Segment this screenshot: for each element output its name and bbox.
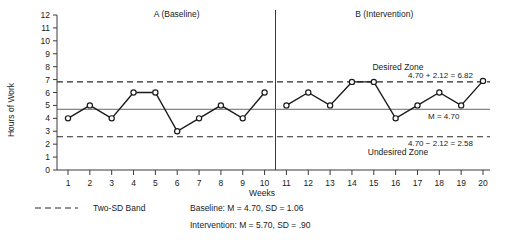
lower-band-value-label: 4.70 − 2.12 = 2.58	[408, 139, 473, 148]
x-tick-label: 7	[197, 178, 202, 188]
y-axis-tick-labels: 0123456789101112	[41, 10, 51, 175]
data-point-marker	[131, 90, 136, 95]
data-point-marker	[415, 103, 420, 108]
data-point-marker	[393, 116, 398, 121]
x-tick-label: 12	[304, 178, 314, 188]
x-tick-label: 18	[435, 178, 445, 188]
x-tick-label: 17	[413, 178, 423, 188]
legend-intervention-stats: Intervention: M = 5.70, SD = .90	[190, 220, 311, 230]
y-tick-label: 0	[45, 165, 50, 175]
data-point-marker	[153, 90, 158, 95]
x-tick-label: 8	[219, 178, 224, 188]
x-tick-label: 16	[391, 178, 401, 188]
data-point-marker	[371, 79, 376, 84]
chart-figure: 0123456789101112 12345678910111213141516…	[0, 0, 513, 240]
data-point-marker	[218, 103, 223, 108]
x-axis-ticks	[68, 170, 483, 175]
baseline-series-line	[68, 93, 265, 132]
x-tick-label: 3	[109, 178, 114, 188]
x-tick-label: 5	[153, 178, 158, 188]
y-tick-label: 2	[45, 139, 50, 149]
y-tick-label: 9	[45, 49, 50, 59]
y-axis-title: Hours of Work	[6, 82, 16, 137]
data-point-marker	[65, 116, 70, 121]
x-tick-label: 4	[131, 178, 136, 188]
x-tick-label: 11	[282, 178, 291, 188]
x-tick-label: 6	[175, 178, 180, 188]
x-tick-label: 15	[369, 178, 379, 188]
x-tick-label: 13	[325, 178, 335, 188]
data-point-marker	[349, 79, 354, 84]
data-point-marker	[87, 103, 92, 108]
data-point-marker	[109, 116, 114, 121]
y-tick-label: 12	[41, 10, 51, 20]
legend-band-label: Two-SD Band	[93, 203, 146, 213]
x-axis-tick-labels: 1234567891011121314151617181920	[66, 178, 488, 188]
y-tick-label: 10	[41, 36, 51, 46]
chart-svg: 0123456789101112 12345678910111213141516…	[0, 0, 513, 240]
data-point-marker	[306, 90, 311, 95]
data-point-marker	[437, 90, 442, 95]
x-tick-label: 20	[478, 178, 488, 188]
y-tick-label: 6	[45, 88, 50, 98]
data-point-marker	[196, 116, 201, 121]
data-point-marker	[175, 129, 180, 134]
mean-value-label: M = 4.70	[428, 112, 460, 121]
x-tick-label: 10	[260, 178, 270, 188]
x-tick-label: 19	[456, 178, 466, 188]
phase-a-label: A (Baseline)	[154, 9, 200, 19]
x-tick-label: 14	[347, 178, 357, 188]
data-point-marker	[459, 103, 464, 108]
y-tick-label: 1	[45, 152, 50, 162]
y-tick-label: 3	[45, 126, 50, 136]
data-point-marker	[480, 78, 485, 83]
upper-band-value-label: 4.70 + 2.12 = 6.82	[408, 71, 473, 80]
legend-baseline-stats: Baseline: M = 4.70, SD = 1.06	[190, 203, 304, 213]
x-tick-label: 2	[87, 178, 92, 188]
undesired-zone-label: Undesired Zone	[368, 147, 429, 157]
phase-b-label: B (Intervention)	[355, 9, 413, 19]
y-tick-label: 8	[45, 62, 50, 72]
chart-canvas: 0123456789101112 12345678910111213141516…	[0, 0, 513, 240]
data-point-marker	[240, 116, 245, 121]
data-point-marker	[328, 103, 333, 108]
x-axis-title: Weeks	[249, 188, 275, 198]
x-tick-label: 9	[240, 178, 245, 188]
data-point-marker	[284, 103, 289, 108]
y-tick-label: 7	[45, 75, 50, 85]
y-axis-ticks	[53, 15, 57, 170]
data-point-marker	[262, 90, 267, 95]
y-tick-label: 11	[41, 23, 50, 33]
y-tick-label: 4	[45, 113, 50, 123]
y-tick-label: 5	[45, 100, 50, 110]
x-tick-label: 1	[66, 178, 71, 188]
